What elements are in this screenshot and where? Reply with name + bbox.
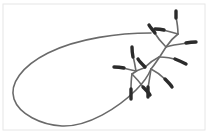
- canvas-background: [0, 0, 209, 140]
- drawing-canvas: [0, 0, 209, 140]
- bud-upper-right-long: [186, 42, 196, 43]
- bud-cluster-up: [132, 47, 133, 57]
- bud-top-left: [155, 29, 164, 30]
- bud-cluster-left: [114, 67, 124, 68]
- drawing-svg: [0, 0, 209, 140]
